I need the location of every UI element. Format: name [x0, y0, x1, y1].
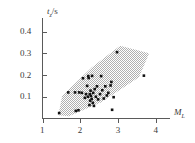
data-point — [102, 97, 105, 100]
x-tick-label-1: 1 — [40, 126, 45, 135]
data-point — [88, 104, 91, 107]
data-point — [96, 85, 99, 88]
data-point — [82, 77, 85, 80]
shaded-band — [58, 46, 149, 117]
data-point — [116, 51, 119, 54]
data-point — [97, 98, 100, 101]
data-point — [58, 112, 61, 115]
data-point — [87, 77, 90, 80]
x-tick-label-2: 2 — [78, 126, 83, 135]
data-point — [67, 91, 70, 94]
x-tick-label-3: 3 — [116, 126, 121, 135]
data-point — [106, 94, 109, 97]
data-point — [91, 75, 94, 78]
data-point — [85, 93, 88, 96]
data-point — [74, 110, 77, 113]
data-point — [84, 97, 87, 100]
data-point — [78, 91, 81, 94]
data-point — [92, 92, 95, 95]
x-tick-label-4: 4 — [154, 126, 159, 135]
y-tick-label-0.3: 0.3 — [20, 49, 31, 58]
y-axis-title: tz/s — [47, 7, 58, 20]
data-point — [95, 95, 98, 98]
data-point — [87, 95, 90, 98]
data-point — [90, 95, 93, 98]
data-point — [100, 75, 103, 78]
data-point — [93, 88, 96, 91]
y-tick-label-0.1: 0.1 — [20, 92, 31, 101]
data-point — [90, 98, 93, 101]
data-point — [77, 109, 80, 112]
data-point — [109, 84, 112, 87]
data-point — [112, 96, 115, 99]
scatter-plot-figure: 0.10.20.30.4 1234 tz/s ML — [0, 0, 195, 143]
data-point — [89, 89, 92, 92]
y-tick-label-0.4: 0.4 — [20, 27, 31, 36]
data-point — [107, 92, 110, 95]
x-axis-title: ML — [174, 108, 185, 121]
data-point — [86, 85, 89, 88]
data-point — [81, 92, 84, 95]
data-point — [143, 74, 146, 77]
data-point — [104, 85, 107, 88]
data-point — [110, 81, 113, 84]
data-point — [99, 93, 102, 96]
data-point — [111, 109, 114, 112]
data-point — [74, 91, 77, 94]
data-point — [101, 89, 104, 92]
y-tick-label-0.2: 0.2 — [20, 71, 31, 80]
data-point — [93, 105, 96, 108]
data-point — [92, 102, 95, 105]
